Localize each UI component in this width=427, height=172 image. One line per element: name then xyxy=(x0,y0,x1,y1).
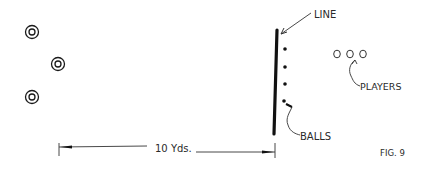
marker-circle xyxy=(26,91,39,104)
distance-label: 10 Yds. xyxy=(155,143,192,154)
ball xyxy=(283,65,287,69)
left-markers xyxy=(26,26,65,104)
line-label: LINE xyxy=(314,9,336,20)
player xyxy=(347,50,354,58)
players-label-pointer xyxy=(350,60,360,86)
ball xyxy=(282,99,286,103)
drill-diagram: LINE BALLS PLAYERS 10 Yds. FIG. 9 xyxy=(0,0,427,172)
player xyxy=(334,50,341,58)
restraining-line xyxy=(274,30,277,134)
balls-label-pointer xyxy=(287,104,300,135)
ball xyxy=(283,82,287,86)
marker-circle xyxy=(26,26,39,39)
balls-pointer-head xyxy=(286,104,292,107)
balls xyxy=(282,47,287,103)
players xyxy=(334,50,367,58)
figure-label: FIG. 9 xyxy=(380,148,405,158)
line-label-arrowhead xyxy=(281,28,287,34)
line-label-arrow xyxy=(281,13,311,34)
marker-circle xyxy=(52,58,65,71)
balls-label: BALLS xyxy=(300,131,331,142)
player xyxy=(360,50,367,58)
dimension-arrowhead-right xyxy=(262,151,274,154)
dimension-arrowhead-left xyxy=(60,146,72,149)
dimension-line-left xyxy=(59,146,147,147)
ball xyxy=(283,47,287,51)
players-label: PLAYERS xyxy=(360,81,401,92)
